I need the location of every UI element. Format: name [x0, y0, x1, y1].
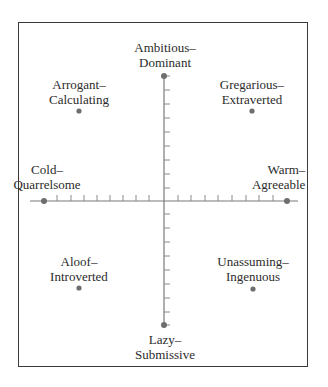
label-right: Warm– Agreeable: [252, 162, 305, 192]
dot-top-right: [249, 108, 254, 113]
vertical-ticks-lower: [164, 214, 170, 325]
dot-bottom-right: [250, 286, 255, 291]
horizontal-ticks-right: [178, 195, 273, 201]
vertical-ticks-upper: [164, 76, 170, 188]
label-bottom-line1: Lazy–: [135, 332, 195, 347]
dot-right: [284, 198, 290, 204]
label-left-line1: Cold–: [13, 162, 80, 177]
label-top-right: Gregarious– Extraverted: [220, 77, 284, 107]
label-bottom-left: Aloof– Introverted: [50, 254, 108, 284]
dot-left: [41, 198, 47, 204]
label-right-line2: Agreeable: [252, 177, 305, 192]
label-top: Ambitious– Dominant: [134, 40, 195, 70]
dot-top-left: [76, 108, 81, 113]
dot-bottom-left: [76, 285, 81, 290]
label-top-right-line2: Extraverted: [220, 92, 284, 107]
horizontal-ticks-left: [57, 195, 149, 201]
label-bottom: Lazy– Submissive: [135, 332, 195, 362]
label-bottom-left-line2: Introverted: [50, 269, 108, 284]
label-top-left-line1: Arrogant–: [49, 77, 109, 92]
label-bottom-left-line1: Aloof–: [50, 254, 108, 269]
label-top-line2: Dominant: [134, 55, 195, 70]
label-left-line2: Quarrelsome: [13, 177, 80, 192]
label-bottom-right: Unassuming– Ingenuous: [217, 254, 289, 284]
label-left: Cold– Quarrelsome: [13, 162, 80, 192]
label-bottom-line2: Submissive: [135, 347, 195, 362]
dot-bottom: [161, 322, 167, 328]
label-bottom-right-line1: Unassuming–: [217, 254, 289, 269]
label-bottom-right-line2: Ingenuous: [217, 269, 289, 284]
label-right-line1: Warm–: [252, 162, 305, 177]
label-top-left: Arrogant– Calculating: [49, 77, 109, 107]
label-top-left-line2: Calculating: [49, 92, 109, 107]
dot-top: [161, 73, 167, 79]
label-top-right-line1: Gregarious–: [220, 77, 284, 92]
label-top-line1: Ambitious–: [134, 40, 195, 55]
